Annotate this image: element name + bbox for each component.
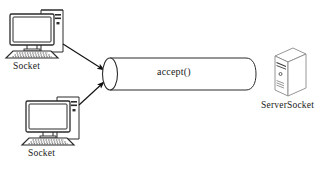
connection-arrow-bottom	[79, 82, 104, 105]
client-top-label: Socket	[13, 61, 40, 71]
computer-keyboard-top	[6, 51, 58, 58]
server-label: ServerSocket	[261, 100, 314, 110]
diagram-canvas: Socket Socket accept() ServerSocket	[0, 0, 327, 174]
client-top-computer-icon	[6, 10, 63, 58]
computer-keyboard-bottom	[22, 138, 74, 145]
accept-pipe-label: accept()	[157, 66, 191, 77]
connection-arrow-top	[63, 44, 104, 70]
computer-monitor-bottom	[26, 101, 70, 138]
server-tower-icon	[275, 48, 306, 96]
client-bottom-label: Socket	[28, 148, 55, 158]
computer-monitor-top	[10, 14, 54, 51]
client-bottom-computer-icon	[22, 97, 79, 145]
